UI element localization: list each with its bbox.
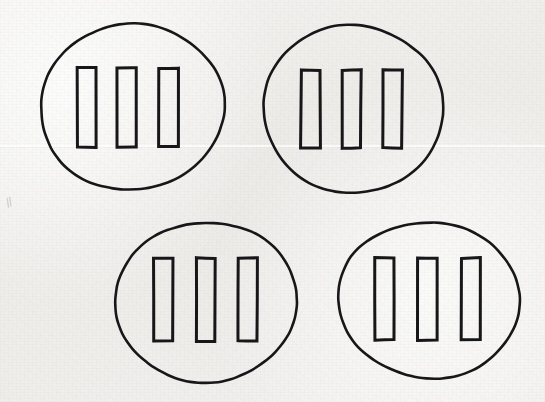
group-bottom-right-circle-outline xyxy=(338,223,520,379)
group-top-left-bar-2 xyxy=(117,68,136,147)
group-top-left-bar-3 xyxy=(159,68,179,146)
group-bottom-left-bar-3 xyxy=(238,258,257,341)
circle-groups-container xyxy=(41,23,520,383)
group-top-right-bar-1 xyxy=(301,70,321,148)
group-bottom-left-circle-outline xyxy=(115,223,297,383)
group-bottom-right-bar-1 xyxy=(375,258,394,341)
group-bottom-left-bar-2 xyxy=(196,258,215,342)
group-top-right-bar-3 xyxy=(383,70,403,148)
figure-svg xyxy=(0,0,545,402)
scanned-figure-canvas: // xyxy=(0,0,545,402)
group-top-right-bar-2 xyxy=(342,70,361,149)
group-bottom-left-bar-1 xyxy=(154,258,173,341)
group-top-left xyxy=(41,23,225,189)
group-bottom-left xyxy=(115,223,297,383)
ink-drawing-layer xyxy=(0,0,545,402)
group-bottom-right-bar-2 xyxy=(417,258,437,340)
group-bottom-right xyxy=(338,223,520,379)
group-top-left-circle-outline xyxy=(41,23,225,189)
group-top-right xyxy=(264,25,444,193)
group-top-right-circle-outline xyxy=(264,25,444,193)
group-top-left-bar-1 xyxy=(77,68,96,148)
group-bottom-right-bar-3 xyxy=(461,258,480,340)
